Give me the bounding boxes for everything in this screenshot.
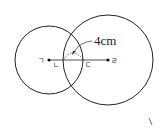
point-giyeok-dot: [47, 58, 50, 61]
label-digeut: ㄷ: [85, 61, 91, 69]
arrowhead-icon: [72, 51, 76, 55]
length-arc: [64, 53, 83, 59]
label-rieul: ㄹ: [111, 57, 117, 65]
label-giyeok: ㄱ: [38, 57, 44, 65]
length-label: 4cm: [94, 33, 116, 48]
label-nieun: ㄴ: [53, 61, 59, 69]
leader-line: [74, 41, 92, 52]
two-circles-diagram: ㄱ ㄴ ㄷ ㄹ 4cm: [0, 0, 165, 128]
stray-mark: [149, 118, 152, 125]
point-rieul-dot: [106, 58, 109, 61]
